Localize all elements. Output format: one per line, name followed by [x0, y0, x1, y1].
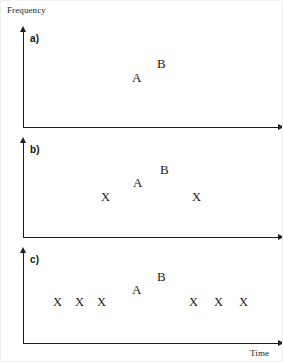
- marker-a-b: A: [133, 176, 142, 189]
- panel-label-a: a): [30, 33, 39, 44]
- marker-x-c-0: X: [53, 296, 62, 309]
- marker-a-c: A: [132, 283, 141, 296]
- marker-x-b-3: X: [192, 191, 201, 204]
- y-axis-line-c: [23, 252, 24, 343]
- marker-x-c-5: X: [189, 296, 198, 309]
- x-axis-arrow-a: [278, 124, 283, 130]
- x-axis-line-b: [23, 237, 278, 238]
- y-axis-label: Frequency: [7, 5, 46, 15]
- marker-b-a: B: [157, 57, 166, 70]
- y-axis-line-a: [23, 31, 24, 127]
- panel-label-c: c): [30, 254, 39, 265]
- y-axis-arrow-c: [20, 247, 26, 253]
- marker-x-c-7: X: [239, 296, 248, 309]
- x-axis-arrow-c: [278, 340, 283, 346]
- x-axis-line-a: [23, 127, 278, 128]
- y-axis-arrow-b: [20, 137, 26, 143]
- marker-x-b-0: X: [101, 191, 110, 204]
- marker-b-c: B: [157, 270, 166, 283]
- marker-x-c-6: X: [214, 296, 223, 309]
- x-axis-line-c: [23, 343, 278, 344]
- frequency-time-figure: Frequency Time a)ABb)XABXc)XXXABXXX: [0, 0, 283, 362]
- panel-label-b: b): [30, 144, 40, 155]
- marker-b-b: B: [160, 163, 169, 176]
- marker-x-c-1: X: [75, 296, 84, 309]
- y-axis-line-b: [23, 142, 24, 237]
- x-axis-arrow-b: [278, 234, 283, 240]
- y-axis-arrow-a: [20, 26, 26, 32]
- marker-x-c-2: X: [97, 296, 106, 309]
- x-axis-label: Time: [250, 348, 269, 358]
- marker-a-a: A: [132, 71, 141, 84]
